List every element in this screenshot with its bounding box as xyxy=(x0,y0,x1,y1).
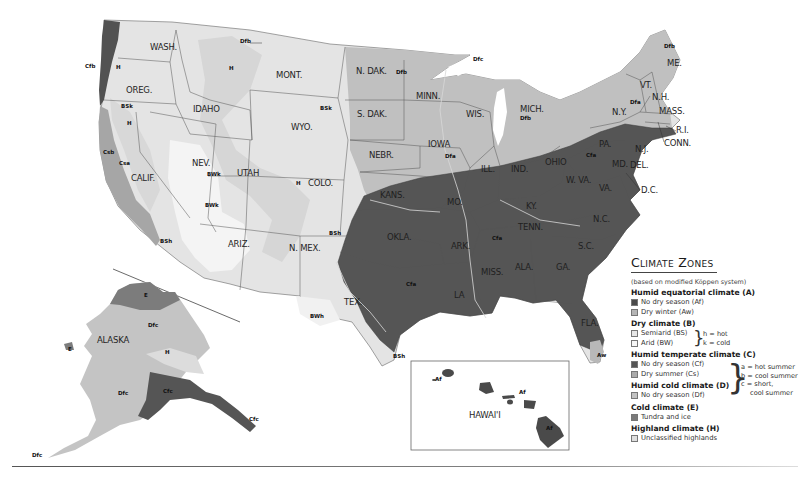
legend-item-aw: Dry winter (Aw) xyxy=(631,308,800,318)
legend-item-tundra: Tundra and ice xyxy=(631,413,800,423)
zone-code-label: Cfa xyxy=(406,281,416,287)
legend-item-highlands: Unclassified highlands xyxy=(631,434,800,444)
zone-code-label: Dfc xyxy=(148,322,158,328)
zone-code-label: Dfb xyxy=(664,43,675,49)
state-label: MINN. xyxy=(416,91,440,101)
zone-code-label: Cfa xyxy=(586,152,596,158)
zone-code-label: H xyxy=(127,120,132,126)
legend-b-notes: h = hot k = cold xyxy=(703,330,730,347)
bottom-rule xyxy=(12,466,798,467)
zone-code-label: Cfa xyxy=(492,235,502,241)
state-label: N.H. xyxy=(652,92,669,102)
state-label: N. DAK. xyxy=(356,66,387,76)
state-label: OKLA. xyxy=(387,232,412,242)
state-label: N.Y. xyxy=(612,107,627,117)
state-label: CONN. xyxy=(664,138,691,148)
zone-code-label: H xyxy=(116,64,121,70)
state-label: UTAH xyxy=(237,168,259,178)
state-label: N.J. xyxy=(635,144,648,154)
legend: Climate Zones (based on modified Köppen … xyxy=(631,252,800,444)
zone-code-label: H xyxy=(229,65,234,71)
state-label: ALASKA xyxy=(97,335,129,345)
swatch-bw xyxy=(631,340,638,347)
zone-code-label: Cfc xyxy=(163,388,173,394)
zone-code-label: Dfc xyxy=(118,390,128,396)
swatch-cf xyxy=(631,361,638,368)
state-label: KY. xyxy=(526,201,537,211)
state-label: IOWA xyxy=(428,139,451,149)
state-label: N.C. xyxy=(593,214,610,224)
state-label: WIS. xyxy=(466,109,484,119)
legend-group-b: Dry climate (B) xyxy=(631,319,800,329)
state-label: WASH. xyxy=(150,42,177,52)
zone-code-label: Csb xyxy=(103,149,114,155)
alaska xyxy=(48,282,256,458)
hawaii-inset xyxy=(411,361,569,450)
state-label: IDAHO xyxy=(193,104,220,114)
state-label: MASS. xyxy=(659,106,685,116)
zone-code-label: Dfb xyxy=(396,69,407,75)
zone-code-label: Af xyxy=(519,389,526,395)
zone-code-label: Af xyxy=(435,376,442,382)
zone-code-label: Dfc xyxy=(473,56,483,62)
zone-code-label: BSh xyxy=(329,230,341,236)
state-label: MICH. xyxy=(520,104,544,114)
state-label: ALA. xyxy=(515,262,533,272)
zone-code-label: BWk xyxy=(205,202,219,208)
zone-code-label: Dfb xyxy=(520,115,531,121)
state-label: OREG. xyxy=(126,85,152,95)
zone-code-label: H xyxy=(165,349,170,355)
state-label: DEL. xyxy=(630,160,649,170)
zone-code-label: H xyxy=(296,180,301,186)
state-label: MONT. xyxy=(276,70,302,80)
alaska-cfc xyxy=(138,372,256,432)
state-label: MD. xyxy=(612,159,628,169)
state-label: GA. xyxy=(556,262,570,272)
legend-item-af: No dry season (Af) xyxy=(631,298,800,308)
legend-group-c: Humid temperate climate (C) xyxy=(631,350,800,360)
zone-code-label: BWk xyxy=(207,171,221,177)
state-label: TENN. xyxy=(517,222,543,232)
swatch-e xyxy=(631,414,638,421)
swatch-aw xyxy=(631,309,638,316)
zone-code-label: Dfc xyxy=(32,452,42,458)
zone-code-label: BWh xyxy=(310,313,324,319)
legend-title: Climate Zones xyxy=(631,255,717,273)
state-label: VT. xyxy=(640,80,652,90)
state-label: ARIZ. xyxy=(228,239,250,249)
state-label: N. MEX. xyxy=(289,243,321,253)
zone-code-label: Dfb xyxy=(240,38,251,44)
state-label: FLA. xyxy=(581,318,598,328)
state-label: COLO. xyxy=(308,178,333,188)
zone-code-label: Aw xyxy=(597,352,606,358)
swatch-cs xyxy=(631,371,638,378)
state-label: MO. xyxy=(447,197,463,207)
legend-group-h: Highland climate (H) xyxy=(631,424,800,434)
state-label: D.C. xyxy=(641,185,658,195)
zone-code-label: Csa xyxy=(119,160,130,166)
legend-group-a: Humid equatorial climate (A) xyxy=(631,288,800,298)
zone-code-label: Af xyxy=(546,425,553,431)
state-label: CALIF. xyxy=(131,173,155,183)
zone-code-label: BSh xyxy=(160,238,172,244)
zone-code-label: Dfa xyxy=(445,153,456,159)
state-label: NEV. xyxy=(192,158,210,168)
zone-code-label: E xyxy=(68,346,72,352)
state-label: IND. xyxy=(511,164,528,174)
zone-code-label: BSh xyxy=(393,353,405,359)
swatch-df xyxy=(631,392,638,399)
state-label: ME. xyxy=(667,58,682,68)
state-label: ARK. xyxy=(451,241,470,251)
state-label: MISS. xyxy=(481,267,503,277)
swatch-bs xyxy=(631,330,638,337)
state-label: NEBR. xyxy=(369,150,394,160)
legend-subtitle: (based on modified Köppen system) xyxy=(631,278,800,286)
state-label: R.I. xyxy=(676,125,689,135)
state-label: VA. xyxy=(599,183,612,193)
swatch-h xyxy=(631,435,638,442)
zone-code-label: BSk xyxy=(121,103,133,109)
state-label: WYO. xyxy=(291,122,312,132)
state-label: W. VA. xyxy=(566,175,591,185)
state-label: PA. xyxy=(599,139,611,149)
state-label: OHIO xyxy=(545,157,567,167)
